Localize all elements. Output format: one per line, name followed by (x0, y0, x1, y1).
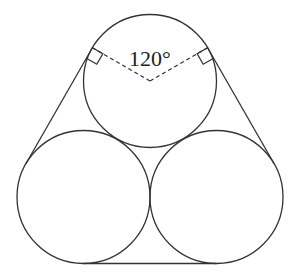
bottom-right-circle (150, 131, 283, 264)
bottom-left-circle (17, 131, 150, 264)
three-circles-diagram: 120° (0, 0, 300, 279)
right-tangent-line (208, 48, 275, 164)
left-tangent-line (26, 48, 93, 164)
angle-label: 120° (129, 46, 171, 71)
